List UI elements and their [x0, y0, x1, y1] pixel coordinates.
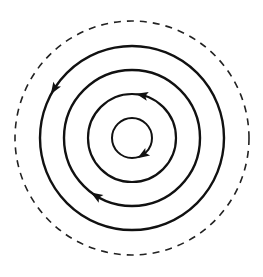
- ring-3-circle: [88, 94, 176, 182]
- ring-2-circle: [64, 70, 200, 206]
- flow-rings: [40, 46, 224, 230]
- ring-1-circle: [40, 46, 224, 230]
- diagram-canvas: [0, 0, 263, 277]
- dashed-boundary-circle: [15, 21, 249, 255]
- concentric-flow-diagram: [0, 0, 263, 277]
- ring-4-circle: [112, 118, 152, 158]
- direction-arrows: [47, 82, 150, 203]
- boundary-circle: [15, 21, 249, 255]
